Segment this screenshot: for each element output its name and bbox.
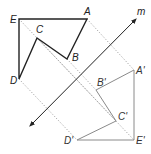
original-polygon-abcde xyxy=(19,19,87,79)
line-m-label: m xyxy=(137,6,145,17)
vertex-label-e-prime: E' xyxy=(136,135,146,146)
connector-d xyxy=(19,79,77,140)
vertex-label-d: D xyxy=(10,75,17,86)
vertex-label-a: A xyxy=(83,6,91,17)
vertex-label-c-prime: C' xyxy=(118,111,128,122)
vertex-label-b: B xyxy=(72,52,79,63)
image-vertex-labels: A'B'C'D'E' xyxy=(64,65,146,146)
line-of-reflection-m xyxy=(30,19,136,126)
vertex-label-e: E xyxy=(10,14,17,25)
original-vertex-labels: ABCDE xyxy=(10,6,91,86)
vertex-label-a-prime: A' xyxy=(135,65,146,76)
vertex-label-c: C xyxy=(36,24,44,35)
vertex-label-d-prime: D' xyxy=(64,135,74,146)
reflection-diagram: m ABCDE A'B'C'D'E' xyxy=(0,0,151,154)
vertex-label-b-prime: B' xyxy=(97,77,107,88)
